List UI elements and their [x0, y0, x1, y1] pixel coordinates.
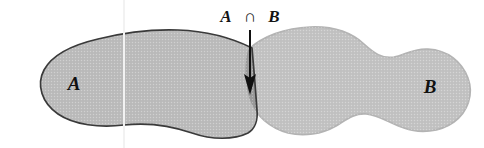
- intersection-label-a: A: [219, 7, 231, 26]
- intersection-label-b: B: [267, 7, 279, 26]
- venn-diagram-figure: A ∩ B A B: [0, 0, 484, 148]
- intersection-operator-icon: ∩: [244, 7, 256, 26]
- venn-diagram-canvas: A ∩ B A B: [0, 0, 484, 148]
- set-b-label: B: [423, 76, 437, 97]
- set-a-label: A: [67, 73, 81, 94]
